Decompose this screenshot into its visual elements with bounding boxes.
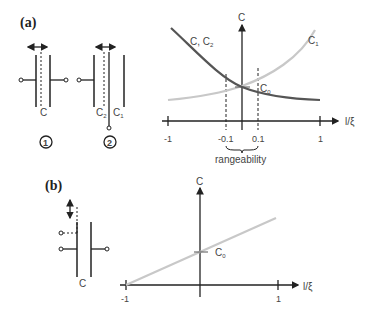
chart-b-x-label: l/ξ: [303, 281, 313, 293]
panel-b-label: (b): [45, 178, 62, 194]
panel-a-label: (a): [20, 15, 37, 31]
chart-b-tick-neg1: -1: [121, 294, 129, 304]
tick-1: 1: [318, 134, 323, 144]
tick-neg01: -0.1: [218, 134, 234, 144]
circuit-2-c2-label: C2: [96, 107, 107, 119]
circuit-2-number: 2: [107, 138, 112, 148]
curve-c1-label: C1: [308, 35, 319, 47]
curve-c-c2-label: C, C2: [190, 36, 214, 48]
circuit-1-cap-label: C: [40, 107, 47, 118]
rangeability-label: rangeability: [215, 154, 266, 165]
chart-b-tick-1: 1: [276, 294, 281, 304]
chart-a-x-label: l/ξ: [345, 116, 355, 128]
tick-neg1: -1: [164, 134, 172, 144]
circuit-1: C 1: [19, 47, 68, 148]
circuit-b-cap-label: C: [79, 278, 86, 289]
circuit-2-c1-label: C1: [113, 107, 124, 119]
chart-a-y-label: C: [238, 12, 245, 23]
circuit-2: C2 C1 2: [77, 47, 124, 148]
chart-b-c0-label: C0: [215, 247, 226, 259]
chart-b-y-label: C: [196, 176, 203, 187]
chart-a: C l/ξ C, C2 C1 C0 -1 -0.1 0.1 1 rangeabi…: [162, 12, 355, 165]
circuit-1-number: 1: [43, 138, 48, 148]
c0-label: C0: [260, 83, 271, 95]
circuit-b: C: [59, 200, 109, 289]
chart-b: C l/ξ C0 -1 1: [120, 176, 313, 304]
tick-01: 0.1: [252, 134, 265, 144]
